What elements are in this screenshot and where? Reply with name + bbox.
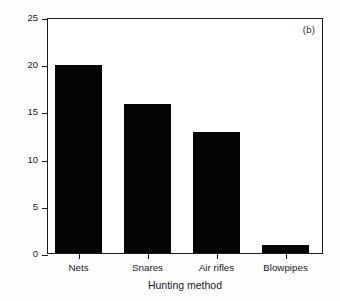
y-tick-label-25: 25 bbox=[12, 12, 38, 23]
bar-nets bbox=[55, 65, 103, 253]
y-tick-25 bbox=[42, 19, 48, 20]
x-tick-label-1: Snares bbox=[113, 262, 182, 273]
x-tick-1 bbox=[148, 253, 149, 259]
y-tick-label-20: 20 bbox=[12, 59, 38, 70]
plot-area: (b) 0510152025 NetsSnaresAir riflesBlowp… bbox=[47, 18, 323, 254]
y-tick-label-0: 0 bbox=[12, 248, 38, 259]
x-tick-3 bbox=[286, 253, 287, 259]
bar-snares bbox=[124, 104, 172, 253]
bar-blowpipes bbox=[262, 245, 310, 253]
y-tick-20 bbox=[42, 66, 48, 67]
y-tick-10 bbox=[42, 161, 48, 162]
x-axis-label: Hunting method bbox=[48, 279, 322, 291]
y-tick-5 bbox=[42, 208, 48, 209]
y-tick-15 bbox=[42, 113, 48, 114]
bar-air-rifles bbox=[193, 132, 241, 253]
x-tick-0 bbox=[79, 253, 80, 259]
x-tick-2 bbox=[217, 253, 218, 259]
x-tick-label-3: Blowpipes bbox=[251, 262, 320, 273]
figure-panel-b: (b) 0510152025 NetsSnaresAir riflesBlowp… bbox=[0, 0, 340, 301]
y-tick-label-15: 15 bbox=[12, 106, 38, 117]
x-tick-label-2: Air rifles bbox=[182, 262, 251, 273]
y-tick-label-10: 10 bbox=[12, 154, 38, 165]
y-tick-label-5: 5 bbox=[12, 201, 38, 212]
panel-label: (b) bbox=[303, 24, 315, 35]
y-tick-0 bbox=[42, 255, 48, 256]
x-tick-label-0: Nets bbox=[44, 262, 113, 273]
